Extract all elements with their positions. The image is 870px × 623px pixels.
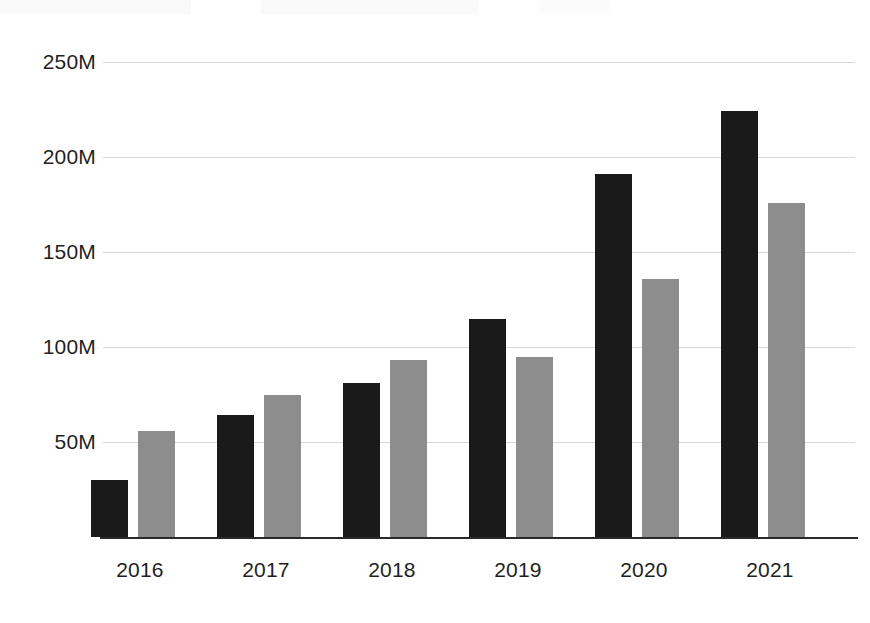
bar-group-2017 (203, 0, 329, 623)
bar-group-2018 (329, 0, 455, 623)
bar-groups: 201620172018201920202021 (0, 0, 870, 623)
bar-group-2016 (77, 0, 203, 623)
x-axis-tick-label-2016: 2016 (77, 558, 203, 582)
x-axis-tick-label-2018: 2018 (329, 558, 455, 582)
bar-chart: 50M100M150M200M250M 20162017201820192020… (0, 0, 870, 623)
bar-2021-series-2 (768, 203, 805, 537)
bar-group-2021 (707, 0, 833, 623)
bar-group-2020 (581, 0, 707, 623)
bar-2018-series-1 (343, 383, 380, 537)
bar-2020-series-2 (642, 279, 679, 537)
bar-2017-series-2 (264, 395, 301, 538)
x-axis-tick-label-2017: 2017 (203, 558, 329, 582)
bar-2021-series-1 (721, 111, 758, 537)
bar-2019-series-1 (469, 319, 506, 538)
x-axis-tick-label-2021: 2021 (707, 558, 833, 582)
bar-2018-series-2 (390, 360, 427, 537)
bar-group-2019 (455, 0, 581, 623)
bar-2016-series-1 (91, 480, 128, 537)
bar-2017-series-1 (217, 415, 254, 537)
bar-2019-series-2 (516, 357, 553, 538)
bar-2020-series-1 (595, 174, 632, 537)
x-axis-tick-label-2019: 2019 (455, 558, 581, 582)
bar-2016-series-2 (138, 431, 175, 537)
x-axis-tick-label-2020: 2020 (581, 558, 707, 582)
